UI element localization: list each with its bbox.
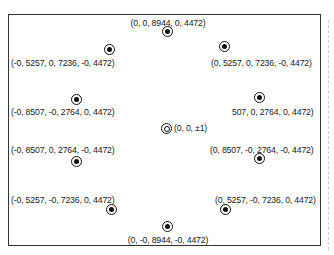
- center-label: (0, 0, ±1): [174, 123, 207, 133]
- vertex-label-bottom-right: (0, 5257, -0, 7236, 0, 4472): [215, 195, 316, 205]
- vertex-marker-icon: [71, 156, 82, 167]
- vertex-marker-icon: [219, 41, 230, 52]
- center-double-circle-icon: [161, 123, 172, 134]
- vertex-label-upper-right: (0, 5257, 0, 7236, -0, 4472): [211, 58, 312, 68]
- vertex-marker-icon: [254, 92, 265, 103]
- page-edge-dashes: [328, 20, 329, 250]
- vertex-label-lower-left: (-0, 8507, 0, 2764, -0, 4472): [11, 145, 115, 155]
- vertex-marker-icon: [71, 94, 82, 105]
- vertex-label-upper-left: (-0, 5257, 0, 7236, -0, 4472): [11, 58, 115, 68]
- vertex-marker-icon: [162, 221, 173, 232]
- vertex-label-top: (0, 0, 8944, 0, 4472): [131, 18, 206, 28]
- vertex-label-mid-right: 507, 0, 2764, 0, 4472): [232, 107, 313, 117]
- vertex-marker-icon: [106, 204, 117, 215]
- vertex-label-mid-left: (-0, 8507, -0, 2764, 0, 4472): [11, 107, 115, 117]
- vertex-label-bottom-left: (-0, 5257, -0, 7236, 0, 4472): [11, 195, 115, 205]
- vertex-marker-icon: [104, 44, 115, 55]
- vertex-label-bottom: (0, -0, 8944, -0, 4472): [128, 235, 208, 245]
- vertex-label-lower-right: (0, 8507, -0, 2764, -0, 4472): [210, 145, 314, 155]
- vertex-marker-icon: [220, 204, 231, 215]
